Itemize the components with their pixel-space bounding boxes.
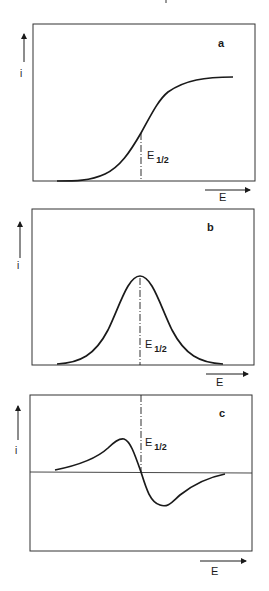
e-half-main: E: [145, 338, 152, 350]
panel-b-e-half-label: E1/2: [145, 339, 167, 350]
figure-graphics: [0, 0, 269, 591]
e-half-sub: 1/2: [156, 155, 169, 165]
panel-b: [20, 209, 254, 374]
e-half-main: E: [147, 149, 154, 161]
panel-b-y-label: i: [17, 261, 19, 271]
panel-a-x-label: E: [219, 192, 226, 203]
panel-c: [18, 395, 252, 561]
panel-a-e-half-label: E1/2: [147, 150, 169, 161]
panel-c-x-label: E: [211, 566, 218, 577]
panel-b-frame: [32, 209, 254, 365]
panel-b-letter: b: [207, 222, 214, 233]
e-half-sub: 1/2: [154, 344, 167, 354]
panel-b-x-label: E: [216, 377, 223, 388]
panel-a-curve: [57, 77, 233, 181]
figure: a i E E1/2 b i E E1/2 c i E E1/2: [0, 0, 269, 591]
panel-c-e-half-label: E1/2: [145, 437, 167, 448]
e-half-sub: 1/2: [154, 442, 167, 452]
panel-c-letter: c: [219, 408, 225, 419]
panel-c-y-label: i: [15, 446, 17, 456]
panel-a-y-label: i: [20, 69, 22, 79]
e-half-main: E: [145, 436, 152, 448]
panel-a-letter: a: [218, 38, 224, 49]
